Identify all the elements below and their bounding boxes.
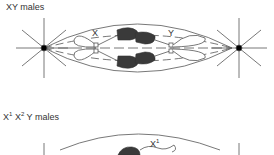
y-chromosome-label: Y — [168, 28, 174, 38]
panel2-spindle — [44, 134, 239, 155]
x-chromosome-label: X — [92, 28, 98, 38]
panel2-chromosome — [118, 147, 140, 155]
meiosis-diagram — [0, 0, 274, 155]
panel1-spindle — [44, 24, 232, 72]
right-aster-icon — [211, 18, 267, 78]
left-aster-icon — [16, 18, 72, 78]
x1-chromosome-label: X1 — [150, 138, 159, 149]
